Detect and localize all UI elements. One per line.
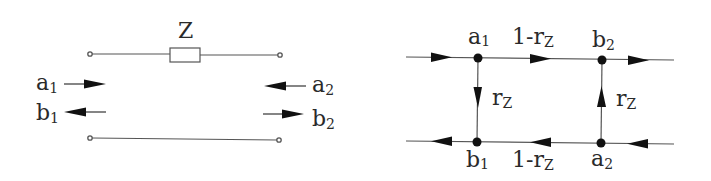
node-a1-label: a1 <box>468 24 490 49</box>
terminal-bottom-left-icon <box>88 136 92 140</box>
left-reflection-label: rZ <box>492 85 513 111</box>
bottom-transmission-label: 1-rZ <box>512 147 554 173</box>
top-input-arrow-icon <box>431 53 452 63</box>
bottom-wire <box>92 138 277 140</box>
top-transmission-label: 1-rZ <box>512 24 554 50</box>
bottom-transmission-arrow-icon <box>530 138 551 148</box>
terminal-top-right-icon <box>278 53 282 57</box>
right-reflection-arrow-up-icon <box>597 86 606 107</box>
port2-incident-label: a2 <box>312 72 334 98</box>
terminal-bottom-right-icon <box>277 138 281 142</box>
top-output-arrow-icon <box>628 56 649 66</box>
node-a2-label: a2 <box>591 146 613 172</box>
node-a1-icon <box>474 54 483 63</box>
bottom-output-arrow-icon <box>431 137 452 147</box>
node-b2-label: b2 <box>592 27 615 53</box>
top-transmission-arrow-icon <box>530 54 551 64</box>
node-b1-label: b1 <box>466 147 489 172</box>
port2-reflected-label: b2 <box>312 106 335 132</box>
node-b2-icon <box>598 56 607 65</box>
a1-arrow-right-icon <box>64 80 106 89</box>
impedance-resistor-icon <box>170 48 200 62</box>
impedance-label: Z <box>178 18 193 43</box>
b2-arrow-right-icon <box>263 110 304 119</box>
node-b1-icon <box>473 138 482 147</box>
a2-arrow-left-icon <box>264 82 306 91</box>
two-port-circuit: Z a1 b1 a2 b2 <box>36 18 335 142</box>
bottom-input-arrow-icon <box>627 139 648 149</box>
diagram-canvas: Z a1 b1 a2 b2 <box>0 0 711 181</box>
left-reflection-arrow-down-icon <box>474 87 483 108</box>
signal-flow-graph: a1 b2 b1 a2 1-rZ 1-rZ rZ rZ <box>406 24 674 173</box>
port1-incident-label: a1 <box>36 70 58 96</box>
terminal-top-left-icon <box>88 52 92 56</box>
right-reflection-label: rZ <box>616 86 637 112</box>
port1-reflected-label: b1 <box>36 100 59 126</box>
b1-arrow-left-icon <box>64 108 106 117</box>
